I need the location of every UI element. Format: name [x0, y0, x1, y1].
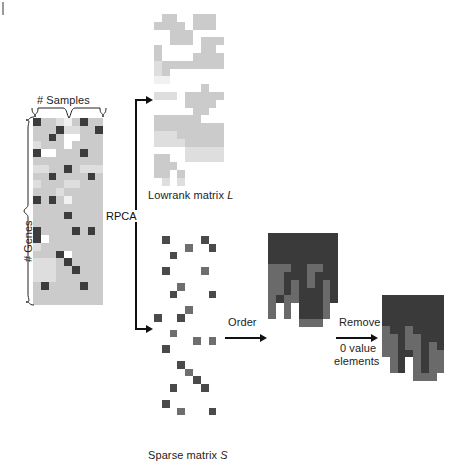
matrix-cell [72, 219, 80, 227]
matrix-cell [209, 275, 217, 283]
matrix-cell [56, 212, 64, 220]
matrix-cell [299, 295, 307, 303]
matrix-cell [193, 76, 201, 84]
matrix-cell [177, 30, 185, 38]
matrix-cell [185, 369, 193, 377]
matrix-cell [405, 334, 413, 342]
matrix-cell [162, 392, 170, 400]
matrix-cell [49, 157, 57, 165]
matrix-cell [185, 259, 193, 267]
matrix-cell [64, 282, 72, 290]
matrix-cell [185, 92, 193, 100]
matrix-cell [185, 178, 193, 186]
matrix-cell [382, 295, 390, 303]
matrix-cell [209, 244, 217, 252]
matrix-cell [390, 365, 398, 373]
matrix-cell [193, 154, 201, 162]
matrix-cell [64, 274, 72, 282]
matrix-cell [201, 259, 209, 267]
matrix-cell [80, 227, 88, 235]
matrix-cell [185, 337, 193, 345]
matrix-cell [154, 345, 162, 353]
matrix-cell [177, 392, 185, 400]
matrix-cell [185, 131, 193, 139]
matrix-cell [216, 361, 224, 369]
matrix-cell [72, 134, 80, 142]
matrix-cell [185, 330, 193, 338]
matrix-cell [315, 256, 323, 264]
matrix-cell [72, 212, 80, 220]
matrix-cell [437, 373, 445, 381]
matrix-cell [382, 318, 390, 326]
matrix-cell [323, 241, 331, 249]
matrix-cell [162, 384, 170, 392]
matrix-cell [291, 272, 299, 280]
matrix-cell [49, 297, 57, 305]
matrix-cell [154, 100, 162, 108]
matrix-cell [185, 162, 193, 170]
matrix-cell [49, 149, 57, 157]
matrix-cell [216, 84, 224, 92]
matrix-cell [95, 126, 103, 134]
matrix-cell [170, 291, 178, 299]
matrix-cell [49, 290, 57, 298]
matrix-cell [177, 69, 185, 77]
matrix-cell [307, 288, 315, 296]
matrix-cell [437, 342, 445, 350]
matrix-cell [177, 123, 185, 131]
matrix-cell [284, 241, 292, 249]
matrix-cell [398, 342, 406, 350]
matrix-cell [56, 173, 64, 181]
matrix-cell [72, 290, 80, 298]
matrix-cell [72, 157, 80, 165]
lowrank-caption-text: Lowrank matrix [148, 189, 227, 201]
matrix-cell [95, 274, 103, 282]
matrix-cell [154, 369, 162, 377]
matrix-cell [162, 361, 170, 369]
matrix-cell [405, 326, 413, 334]
matrix-cell [382, 357, 390, 365]
matrix-cell [72, 243, 80, 251]
matrix-cell [177, 345, 185, 353]
matrix-cell [209, 108, 217, 116]
matrix-cell [177, 53, 185, 61]
matrix-cell [64, 251, 72, 259]
matrix-cell [437, 350, 445, 358]
matrix-cell [382, 350, 390, 358]
samples-brace [31, 107, 107, 119]
matrix-cell [421, 318, 429, 326]
matrix-cell [56, 118, 64, 126]
matrix-cell [323, 319, 331, 327]
matrix-cell [41, 251, 49, 259]
matrix-cell [307, 256, 315, 264]
matrix-cell [49, 251, 57, 259]
matrix-cell [170, 115, 178, 123]
matrix-cell [209, 131, 217, 139]
matrix-cell [177, 236, 185, 244]
matrix-cell [216, 45, 224, 53]
ordered-matrix [268, 233, 338, 327]
matrix-cell [41, 149, 49, 157]
matrix-cell [177, 415, 185, 423]
matrix-cell [154, 123, 162, 131]
matrix-cell [185, 267, 193, 275]
matrix-cell [88, 141, 96, 149]
matrix-cell [201, 322, 209, 330]
matrix-cell [193, 291, 201, 299]
matrix-cell [177, 400, 185, 408]
matrix-cell [56, 243, 64, 251]
matrix-cell [162, 291, 170, 299]
matrix-cell [88, 149, 96, 157]
matrix-cell [413, 334, 421, 342]
matrix-cell [177, 259, 185, 267]
matrix-cell [154, 61, 162, 69]
matrix-cell [162, 259, 170, 267]
matrix-cell [429, 295, 437, 303]
matrix-cell [170, 100, 178, 108]
matrix-cell [291, 233, 299, 241]
matrix-cell [162, 337, 170, 345]
matrix-cell [429, 373, 437, 381]
matrix-cell [330, 241, 338, 249]
matrix-cell [154, 408, 162, 416]
matrix-cell [413, 318, 421, 326]
